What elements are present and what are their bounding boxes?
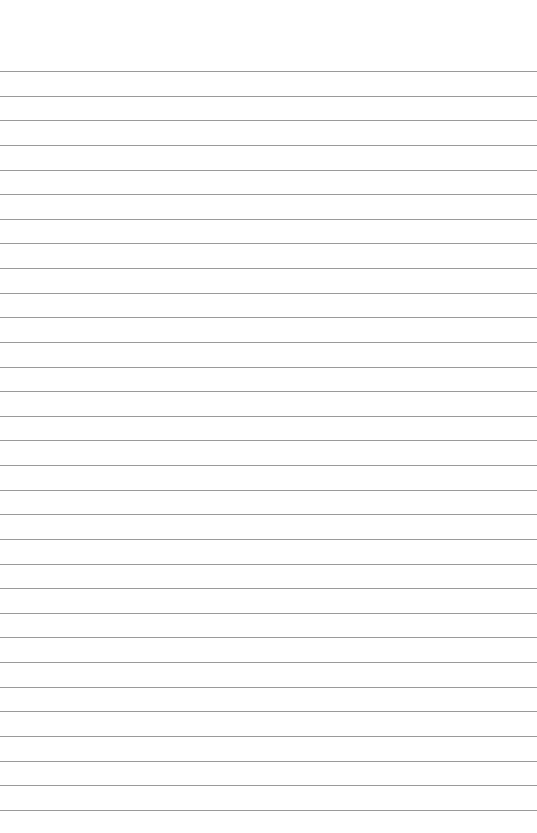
ruled-line [0,785,537,786]
ruled-line [0,588,537,589]
ruled-line [0,391,537,392]
ruled-line [0,465,537,466]
ruled-line [0,662,537,663]
ruled-line [0,637,537,638]
ruled-line [0,687,537,688]
ruled-line [0,810,537,811]
ruled-line [0,613,537,614]
ruled-line [0,243,537,244]
ruled-line [0,564,537,565]
ruled-line [0,416,537,417]
ruled-line [0,539,537,540]
ruled-line [0,268,537,269]
ruled-line [0,145,537,146]
lined-paper-page [0,0,537,833]
ruled-line [0,96,537,97]
ruled-line [0,711,537,712]
ruled-line [0,490,537,491]
ruled-line [0,120,537,121]
ruled-line [0,761,537,762]
ruled-line [0,367,537,368]
ruled-line [0,342,537,343]
ruled-line [0,514,537,515]
ruled-line [0,736,537,737]
ruled-line [0,293,537,294]
ruled-line [0,170,537,171]
ruled-line [0,440,537,441]
ruled-line [0,71,537,72]
ruled-line [0,317,537,318]
ruled-line [0,194,537,195]
ruled-line [0,219,537,220]
